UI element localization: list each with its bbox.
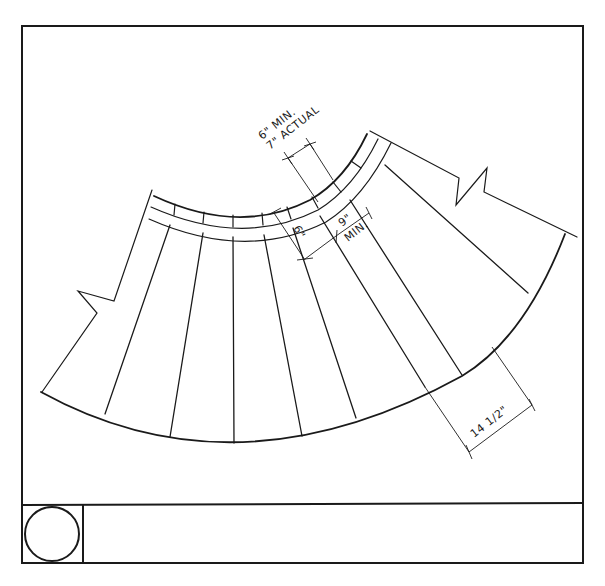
title-block-divider [22,503,583,505]
stair-plan-drawing: 6" MIN. 7" ACTUAL 6" 9" MIN. 14 1/2" [0,0,605,586]
dim-label-6-inner: 6" [290,223,308,241]
title-block-circle-icon [25,507,79,561]
stair-geometry [41,131,577,443]
left-break-line [42,190,152,392]
outer-arc [41,234,565,442]
inner-arc-1 [154,134,367,217]
right-break-line [370,131,577,237]
drawing-border [22,26,583,563]
dim-label-14-half: 14 1/2" [468,403,510,440]
